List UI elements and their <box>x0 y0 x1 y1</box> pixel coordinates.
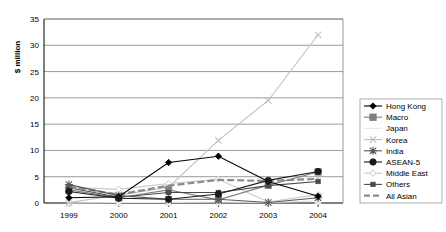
marker-shape <box>165 196 171 202</box>
marker-shape <box>116 186 122 192</box>
marker-circle <box>165 196 171 202</box>
marker-shape <box>215 137 221 143</box>
marker-circle <box>265 177 271 183</box>
marker-circle <box>370 159 376 165</box>
y-tick-label: 20 <box>30 94 39 103</box>
marker-shape <box>66 188 72 194</box>
y-tick-label: 0 <box>35 199 40 208</box>
marker-cross <box>315 32 321 38</box>
legend-label: Japan <box>386 124 408 133</box>
marker-shape <box>264 198 272 206</box>
marker-shape <box>315 168 321 174</box>
marker-star <box>369 147 377 155</box>
marker-shape <box>370 159 376 165</box>
marker-star <box>65 181 73 189</box>
x-tick-label: 2000 <box>110 211 128 220</box>
y-tick-label: 15 <box>30 120 39 129</box>
marker-open-diamond <box>116 186 122 192</box>
marker-shape <box>315 32 321 38</box>
legend-label: ASEAN-5 <box>386 158 421 167</box>
y-axis-title: $ million <box>13 41 22 74</box>
legend: Hong KongMacroJapanKoreaIndiaASEAN-5Midd… <box>360 99 442 203</box>
y-tick-label: 10 <box>30 146 39 155</box>
marker-shape <box>369 147 377 155</box>
marker-square <box>370 114 376 120</box>
x-tick-label: 1999 <box>60 211 78 220</box>
marker-circle <box>215 191 221 197</box>
x-tick-label: 2001 <box>160 211 178 220</box>
y-tick-label: 30 <box>30 41 39 50</box>
marker-circle <box>315 168 321 174</box>
legend-label: All Asian <box>386 192 417 201</box>
series-line <box>69 172 318 200</box>
marker-shape <box>265 177 271 183</box>
marker-circle <box>116 195 122 201</box>
chart-canvas: 05101520253035$ million19992000200120022… <box>0 0 446 232</box>
legend-label: Others <box>386 180 410 189</box>
legend-label: Macro <box>386 113 409 122</box>
y-gridlines: 05101520253035 <box>30 15 343 208</box>
line-chart: 05101520253035$ million19992000200120022… <box>0 0 446 232</box>
marker-small-square <box>166 190 170 194</box>
legend-label: Hong Kong <box>386 102 426 111</box>
y-tick-label: 5 <box>35 173 40 182</box>
y-tick-label: 35 <box>30 15 39 24</box>
marker-star <box>264 198 272 206</box>
marker-shape <box>371 182 375 186</box>
x-axis-labels: 199920002001200220032004 <box>60 203 328 220</box>
marker-shape <box>116 195 122 201</box>
legend-label: Korea <box>386 136 408 145</box>
marker-shape <box>166 190 170 194</box>
marker-diamond <box>215 153 221 159</box>
marker-cross <box>215 137 221 143</box>
marker-shape <box>215 191 221 197</box>
marker-circle <box>66 188 72 194</box>
marker-shape <box>165 159 171 165</box>
marker-small-square <box>371 182 375 186</box>
x-tick-label: 2003 <box>259 211 277 220</box>
marker-shape <box>65 181 73 189</box>
legend-label: Middle East <box>386 169 429 178</box>
marker-shape <box>370 114 376 120</box>
series-line <box>69 35 318 203</box>
x-tick-label: 2004 <box>309 211 327 220</box>
marker-shape <box>215 153 221 159</box>
x-tick-label: 2002 <box>210 211 228 220</box>
marker-diamond <box>165 159 171 165</box>
y-tick-label: 25 <box>30 68 39 77</box>
legend-label: India <box>386 147 404 156</box>
